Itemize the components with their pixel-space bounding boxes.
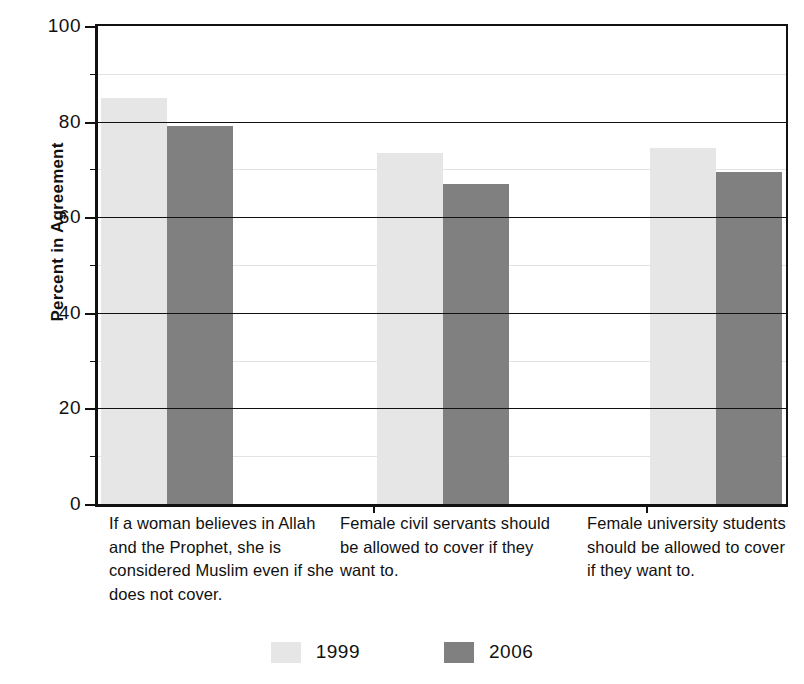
tick-mark [90,169,96,170]
y-tick-label: 60 [59,206,81,228]
y-tick-label: 80 [59,111,81,133]
tick-mark [85,217,96,219]
category-label-2: Female civil servants should be allowed … [340,512,555,583]
x-axis-category-labels: If a woman believes in Allah and the Pro… [95,512,795,622]
y-tick-label: 100 [48,15,81,37]
bar-1999-group1 [101,98,167,504]
bar-1999-group2 [377,153,443,504]
plot-area: 020406080100 [95,24,788,507]
bar-2006-group3 [716,172,782,504]
tick-mark [85,504,96,506]
bar-1999-group3 [650,148,716,504]
legend-label-2006: 2006 [489,641,533,663]
category-label-3: Female university students should be all… [587,512,792,583]
tick-mark [90,265,96,266]
tick-mark [90,456,96,457]
major-gridline [98,313,786,314]
chart-legend: 1999 2006 [0,641,804,663]
dark-gray-swatch-icon [444,642,474,663]
tick-mark [90,361,96,362]
legend-item-2006: 2006 [444,641,533,663]
y-tick-label: 0 [70,493,81,515]
tick-mark [90,74,96,75]
category-label-1: If a woman believes in Allah and the Pro… [109,512,344,606]
minor-gridline [98,74,786,75]
light-gray-swatch-icon [271,642,301,663]
legend-label-1999: 1999 [316,641,360,663]
major-gridline [98,408,786,409]
y-tick-label: 20 [59,397,81,419]
bar-chart-figure: Percent in Agreement 020406080100 If a w… [0,0,804,684]
major-gridline [98,217,786,218]
legend-item-1999: 1999 [271,641,360,663]
tick-mark [85,122,96,124]
plot-inner: 020406080100 [98,26,786,504]
tick-mark [85,313,96,315]
tick-mark [85,408,96,410]
major-gridline [98,122,786,123]
tick-mark [85,26,96,28]
bar-2006-group1 [167,126,233,504]
y-tick-label: 40 [59,302,81,324]
bar-2006-group2 [443,184,509,504]
